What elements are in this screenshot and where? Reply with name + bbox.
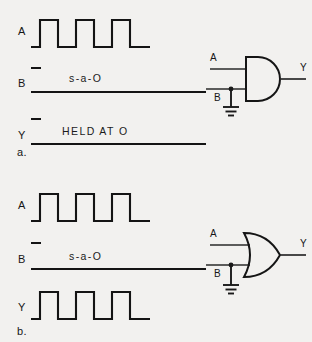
and-gate-label-output-y: Y (300, 63, 307, 73)
and-gate-schematic-panel-a: A B Y (206, 53, 312, 125)
and-gate-label-input-a: A (210, 53, 217, 63)
panel-b: A B s-a-O Y b. (0, 171, 312, 342)
fault-timing-figure: A B s-a-O Y HELD AT O a. (0, 0, 312, 342)
or-gate-body (244, 233, 280, 277)
or-gate-label-input-a: A (210, 229, 217, 239)
and-gate-label-input-b: B (214, 93, 221, 103)
or-gate-label-output-y: Y (300, 239, 307, 249)
and-gate-body (246, 57, 280, 101)
or-gate-label-input-b: B (214, 269, 221, 279)
panel-caption-a: a. (17, 147, 27, 158)
panel-a: A B s-a-O Y HELD AT O a. (0, 0, 312, 171)
or-gate-schematic-panel-b: A B Y (206, 229, 312, 305)
panel-caption-b: b. (17, 326, 27, 337)
